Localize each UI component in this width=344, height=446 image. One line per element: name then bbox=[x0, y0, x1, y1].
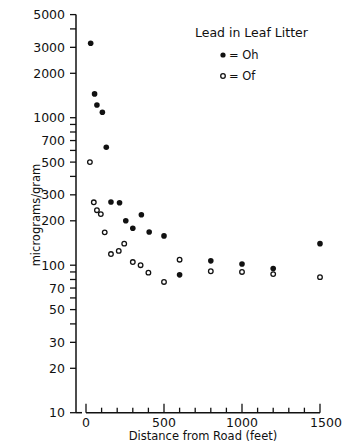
data-point-oh bbox=[92, 91, 98, 97]
data-point-of bbox=[138, 263, 143, 268]
data-point-of bbox=[162, 280, 167, 285]
data-point-of bbox=[122, 241, 127, 246]
data-point-of bbox=[131, 260, 136, 265]
data-point-oh bbox=[146, 229, 152, 235]
y-axis-title: micrograms/gram bbox=[29, 164, 43, 267]
data-point-oh bbox=[108, 199, 114, 205]
x-tick-label: 500 bbox=[152, 415, 176, 430]
legend: Lead in Leaf Litter = Oh = Of bbox=[195, 25, 309, 83]
data-point-of bbox=[146, 270, 151, 275]
data-point-of bbox=[109, 252, 114, 257]
x-tick-label: 1500 bbox=[310, 415, 342, 430]
y-tick-label: 3000 bbox=[33, 40, 65, 55]
x-tick-label: 0 bbox=[82, 415, 90, 430]
data-point-of bbox=[209, 269, 214, 274]
data-point-oh bbox=[139, 212, 145, 218]
data-point-oh bbox=[117, 200, 123, 206]
y-tick-label: 700 bbox=[41, 133, 65, 148]
y-tick-label: 200 bbox=[41, 213, 65, 228]
data-point-oh bbox=[239, 261, 245, 267]
data-point-oh bbox=[100, 109, 106, 115]
data-point-of bbox=[271, 272, 276, 277]
legend-label-oh: = Oh bbox=[229, 48, 259, 62]
data-points bbox=[88, 40, 323, 284]
y-tick-label: 10 bbox=[49, 405, 65, 420]
x-axis: 050010001500 bbox=[82, 404, 342, 430]
data-point-of bbox=[177, 257, 182, 262]
legend-label-of: = Of bbox=[229, 69, 256, 83]
data-point-of bbox=[88, 160, 93, 165]
data-point-of bbox=[240, 270, 245, 275]
data-point-oh bbox=[123, 218, 129, 224]
y-tick-label: 50 bbox=[49, 302, 65, 317]
y-tick-label: 70 bbox=[49, 281, 65, 296]
y-tick-label: 30 bbox=[49, 335, 65, 350]
data-point-of bbox=[95, 208, 100, 213]
x-axis-title: Distance from Road (feet) bbox=[129, 429, 278, 443]
data-point-oh bbox=[103, 144, 109, 150]
lead-scatter-chart: 1020305070100200300500700100020003000500… bbox=[0, 0, 344, 446]
y-tick-label: 5000 bbox=[33, 7, 65, 22]
legend-open-marker-icon bbox=[221, 74, 226, 79]
y-tick-label: 100 bbox=[41, 258, 65, 273]
x-tick-label: 1000 bbox=[226, 415, 258, 430]
data-point-oh bbox=[208, 258, 214, 264]
data-point-oh bbox=[317, 241, 323, 247]
data-point-of bbox=[318, 275, 323, 280]
y-tick-label: 300 bbox=[41, 187, 65, 202]
legend-filled-marker-icon bbox=[220, 52, 225, 57]
data-point-oh bbox=[161, 233, 167, 239]
data-point-oh bbox=[270, 266, 276, 272]
data-point-oh bbox=[94, 102, 100, 108]
y-tick-label: 1000 bbox=[33, 110, 65, 125]
y-tick-label: 500 bbox=[41, 155, 65, 170]
data-point-oh bbox=[177, 272, 183, 278]
legend-title: Lead in Leaf Litter bbox=[195, 25, 309, 40]
y-tick-label: 20 bbox=[49, 361, 65, 376]
data-point-of bbox=[99, 212, 104, 217]
data-point-oh bbox=[130, 225, 136, 231]
data-point-of bbox=[116, 249, 121, 254]
data-point-of bbox=[92, 200, 97, 205]
data-point-oh bbox=[88, 40, 94, 46]
y-tick-label: 2000 bbox=[33, 66, 65, 81]
data-point-of bbox=[102, 230, 107, 235]
